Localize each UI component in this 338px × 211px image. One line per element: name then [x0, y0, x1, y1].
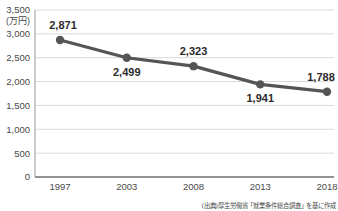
data-value-label: 1,941	[246, 92, 274, 104]
y-axis-tick-label: 1,000	[6, 124, 30, 135]
data-value-label: 2,499	[113, 66, 141, 78]
y-axis-unit-label: (万円)	[6, 16, 30, 26]
x-axis-tick-label: 2008	[183, 181, 204, 192]
y-axis-tick-label: 2,500	[6, 52, 30, 63]
chart-canvas: 05001,0001,5002,0002,5003,0003,500 (万円) …	[0, 0, 338, 211]
y-axis-tick-label: 500	[14, 148, 30, 159]
y-axis-tick-label: 1,500	[6, 100, 30, 111]
data-value-labels-group: 2,8712,4992,3231,9411,788	[49, 19, 335, 104]
source-note: (出典)厚生労働省「就業条件総合調査」を基に作成	[201, 201, 336, 210]
line-chart: 05001,0001,5002,0002,5003,0003,500 (万円) …	[0, 0, 338, 211]
data-point-marker	[123, 54, 131, 62]
data-point-marker	[323, 87, 331, 95]
data-point-marker	[56, 36, 64, 44]
data-value-label: 2,871	[49, 19, 77, 31]
data-point-marker	[189, 62, 197, 70]
x-axis-tick-label: 2018	[316, 181, 337, 192]
gridlines-group	[35, 10, 334, 177]
x-axis-labels-group: 19972003200820132018	[49, 181, 337, 192]
data-point-marker	[256, 80, 264, 88]
y-axis-labels-group: 05001,0001,5002,0002,5003,0003,500	[6, 4, 30, 182]
data-value-label: 2,323	[180, 45, 208, 57]
y-axis-tick-label: 3,500	[6, 4, 30, 15]
data-value-label: 1,788	[307, 71, 335, 83]
y-axis-tick-label: 3,000	[6, 28, 30, 39]
y-axis-tick-label: 0	[25, 171, 30, 182]
x-axis-tick-label: 1997	[49, 181, 70, 192]
x-axis-tick-label: 2013	[250, 181, 271, 192]
x-axis-tick-label: 2003	[116, 181, 137, 192]
y-axis-tick-label: 2,000	[6, 76, 30, 87]
